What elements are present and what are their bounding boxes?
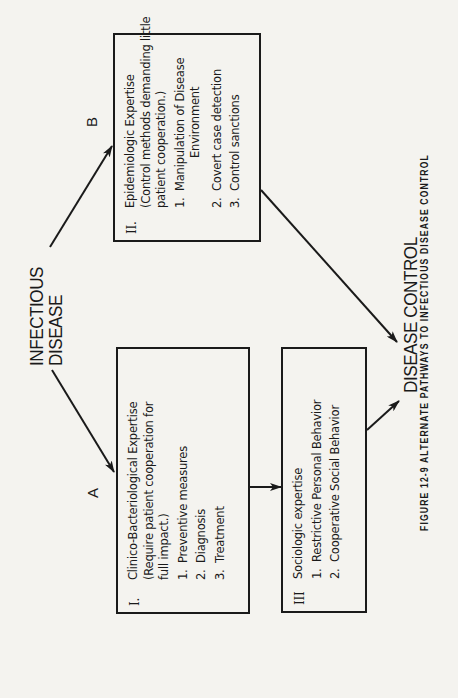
arrow-sociologic-to-control (367, 401, 399, 430)
box-sociologic-expertise: III Sociologic expertise 1.Restrictive P… (281, 347, 367, 613)
box-title: Epidemiologic Expertise (123, 41, 139, 208)
list-item: 3.Control sanctions (228, 41, 244, 208)
arrow-epidemiologic-to-control (261, 190, 397, 342)
box-numeral: II. (125, 214, 141, 234)
box-epidemiologic-expertise: II. Epidemiologic Expertise (Control met… (113, 33, 261, 242)
list-item: 1.Preventive measures (176, 355, 192, 580)
list-item: 2.Covert case detection (210, 41, 226, 208)
source-node: INFECTIOUS DISEASE (27, 267, 65, 366)
box-clinical-expertise: I. Clinico-Bacteriological Expertise (Re… (116, 347, 250, 614)
list-item: 1.Restrictive Personal Behavior (310, 355, 326, 579)
arrow-path-a (52, 370, 114, 472)
path-b-label: B (83, 117, 100, 127)
list-item: 1.Manipulation of Disease Environment (173, 41, 204, 208)
diagram-canvas: INFECTIOUS DISEASE A B I. Clinico-Bacter… (0, 0, 458, 698)
list-item: 2.Diagnosis (194, 355, 210, 580)
path-a-label: A (84, 488, 101, 498)
box-title: Sociologic expertise (291, 355, 307, 579)
box-subtitle: patient cooperation.) (154, 41, 170, 208)
box-subtitle: (Require patient cooperation for (142, 355, 158, 580)
list-item: 3.Treatment (213, 355, 229, 580)
arrow-path-b (50, 146, 112, 247)
list-item: 2.Cooperative Social Behavior (328, 355, 344, 579)
box-numeral: I. (128, 586, 144, 606)
box-subtitle: (Control methods demanding little (139, 41, 155, 208)
source-line-1: INFECTIOUS (27, 267, 46, 366)
box-numeral: III (293, 585, 309, 605)
box-subtitle: full impact.) (157, 355, 173, 580)
box-title: Clinico-Bacteriological Expertise (126, 355, 142, 580)
source-line-2: DISEASE (46, 267, 65, 366)
figure-caption: FIGURE 12-9 ALTERNATE PATHWAYS TO INFECT… (418, 154, 430, 531)
